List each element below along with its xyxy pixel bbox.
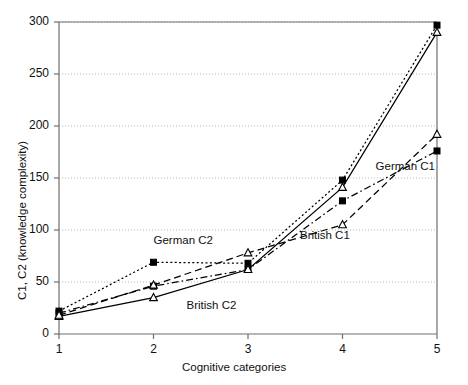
x-axis-title: Cognitive categories — [182, 361, 286, 373]
y-tick-label: 200 — [7, 118, 49, 132]
y-tick-label: 0 — [7, 326, 49, 340]
chart-figure: C1, C2 (knowledge complexity) Cognitive … — [0, 0, 468, 385]
gridlines — [59, 22, 437, 282]
y-tick-label: 100 — [7, 222, 49, 236]
x-tick-label: 4 — [331, 342, 355, 356]
series-label-british-c2: British C2 — [187, 299, 237, 311]
y-tick-label: 300 — [7, 14, 49, 28]
series-label-british-c1: British C1 — [300, 229, 350, 241]
x-tick-label: 2 — [142, 342, 166, 356]
plot-area — [0, 0, 468, 385]
axis-ticks — [54, 22, 437, 339]
y-tick-label: 250 — [7, 66, 49, 80]
y-tick-label: 150 — [7, 170, 49, 184]
x-tick-label: 5 — [425, 342, 449, 356]
series-label-german-c1: German C1 — [376, 160, 435, 172]
series-label-german-c2: German C2 — [154, 234, 213, 246]
x-tick-label: 3 — [236, 342, 260, 356]
y-tick-label: 50 — [7, 274, 49, 288]
x-tick-label: 1 — [47, 342, 71, 356]
